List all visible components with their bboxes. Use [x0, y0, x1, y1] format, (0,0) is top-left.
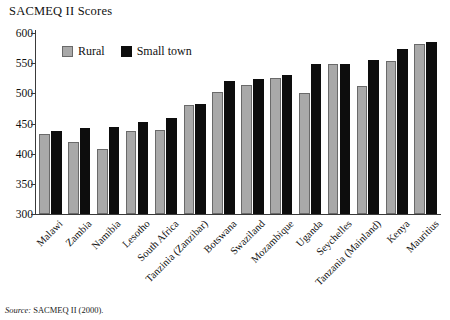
source-text: SACMEQ II (2000).	[31, 305, 103, 315]
x-axis-label-kenya: Kenya	[384, 218, 411, 245]
source-keyword: Source:	[5, 305, 31, 315]
x-axis-tick-labels: MalawiZambiaNamibiaLesothoSouth AfricaTa…	[0, 0, 450, 320]
x-axis-label-malawi: Malawi	[35, 218, 65, 248]
x-axis-label-namibia: Namibia	[90, 218, 123, 251]
chart-figure: SACMEQ II Scores 300350400450500550600 R…	[0, 0, 450, 320]
source-note: Source: SACMEQ II (2000).	[5, 305, 103, 315]
